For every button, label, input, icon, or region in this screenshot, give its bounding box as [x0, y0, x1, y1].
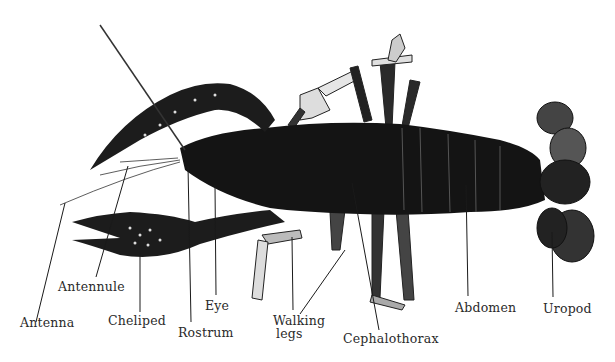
- label-uropod: Uropod: [543, 302, 592, 316]
- label-rostrum: Rostrum: [178, 326, 234, 340]
- label-walking-legs-line2: legs: [276, 327, 303, 341]
- tail-fan: [537, 102, 594, 262]
- lower-walking-legs: [252, 210, 414, 310]
- label-eye: Eye: [205, 299, 229, 313]
- label-antennule: Antennule: [58, 280, 125, 294]
- label-cheliped: Cheliped: [108, 314, 166, 328]
- crayfish-illustration: [0, 0, 615, 362]
- upper-walking-legs: [288, 34, 420, 128]
- label-cephalothorax: Cephalothorax: [343, 332, 439, 346]
- cephalothorax-shape: [180, 123, 545, 215]
- label-abdomen: Abdomen: [455, 301, 516, 315]
- crayfish-diagram: Antenna Antennule Cheliped Rostrum Eye W…: [0, 0, 615, 362]
- label-antenna: Antenna: [20, 316, 74, 330]
